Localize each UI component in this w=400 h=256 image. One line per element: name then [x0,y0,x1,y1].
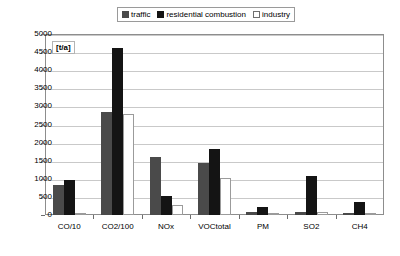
bar-group [142,34,190,215]
bar [198,163,209,215]
x-axis-tick-label: SO2 [303,222,319,231]
bar-group [45,34,93,215]
x-axis-tick-label: VOCtotal [198,222,230,231]
x-axis-tick-label: PM [257,222,269,231]
industry-swatch [253,11,260,18]
bars-layer [45,34,384,215]
residential-combustion-swatch [157,11,164,18]
x-axis-tick-label: CO/10 [58,222,81,231]
y-axis-tick-mark [41,215,45,216]
bar-group [93,34,141,215]
bar [53,185,64,215]
x-axis-tick-mark [190,215,191,219]
bar [123,114,134,215]
bar [257,207,268,215]
x-axis-tick-mark [287,215,288,219]
bar [220,178,231,215]
x-axis-tick-mark [142,215,143,219]
legend-label: residential combustion [166,10,246,19]
bar [317,212,328,215]
bar [75,213,86,215]
legend-label: industry [262,10,290,19]
x-axis-tick-mark [239,215,240,219]
x-axis-tick-mark [336,215,337,219]
bar [161,196,172,215]
bar [365,213,376,215]
legend-entry: industry [253,10,290,19]
bar [246,212,257,215]
x-axis-tick-label: NOx [158,222,174,231]
legend-label: traffic [131,10,150,19]
bar-group [336,34,384,215]
bar [209,149,220,215]
bar [354,202,365,215]
traffic-swatch [122,11,129,18]
bar [268,213,279,215]
bar [150,157,161,215]
bar [172,205,183,215]
bar [64,180,75,215]
x-axis-tick-label: CO2/100 [102,222,134,231]
bar [295,212,306,215]
x-axis-tick-mark [93,215,94,219]
bar [343,213,354,215]
legend-entry: residential combustion [157,10,246,19]
bar-group [239,34,287,215]
x-axis-tick-label: CH4 [352,222,368,231]
bar-group [190,34,238,215]
bar-chart: trafficresidential combustionindustry [t… [0,0,400,256]
bar-group [287,34,335,215]
bar [112,48,123,215]
bar [101,112,112,215]
bar [306,176,317,215]
legend-entry: traffic [122,10,150,19]
chart-legend: trafficresidential combustionindustry [117,7,295,22]
